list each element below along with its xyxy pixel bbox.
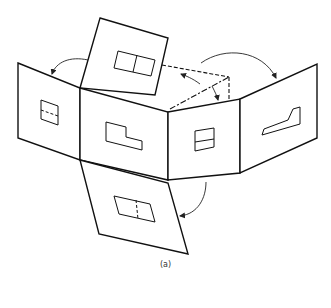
figure-caption: (a) [0,260,331,269]
arrow-dashed-down-icon [212,86,218,100]
top-view-panel [80,18,168,95]
arrow-dashed-up-icon [181,74,200,84]
arrow-top-to-left-icon [52,59,88,74]
arrow-bottom-rotation-icon [180,182,206,216]
rear-view-panel [240,64,317,173]
left-side-view-panel [18,63,80,160]
right-side-view-panel [168,99,240,180]
